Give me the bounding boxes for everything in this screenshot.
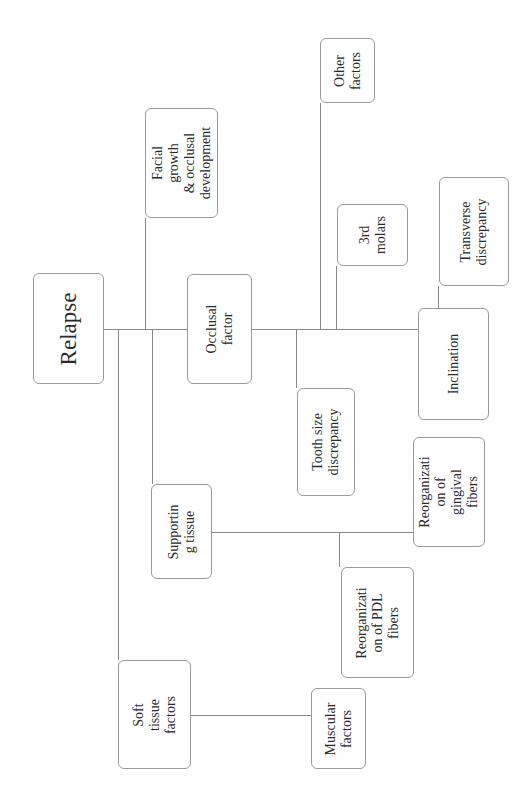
node-label: Occlusal factor xyxy=(203,305,235,354)
node-label: 3rd molars xyxy=(356,216,388,254)
node-reorganization-gingival-fibers: Reorganizati on of gingival fibers xyxy=(413,437,485,547)
node-soft-tissue-factors: Soft tissue factors xyxy=(118,660,191,769)
node-label: Soft tissue factors xyxy=(130,695,178,733)
node-supporting-tissue: Supportin g tissue xyxy=(151,484,212,579)
node-label: Facial growth & occlusal development xyxy=(149,127,213,199)
node-reorganization-pdl-fibers: Reorganizati on of PDL fibers xyxy=(341,567,414,678)
node-inclination: Inclination xyxy=(418,308,489,420)
node-transverse-discrepancy: Transverse discrepancy xyxy=(439,177,509,286)
node-label: Muscular factors xyxy=(322,702,354,755)
node-label: Supportin g tissue xyxy=(165,504,197,559)
node-label: Transverse discrepancy xyxy=(458,198,490,265)
connector-supporting-gingival xyxy=(212,532,413,533)
node-facial-growth: Facial growth & occlusal development xyxy=(145,108,218,218)
connector-to-facial-growth xyxy=(145,218,146,329)
connector-occlusal-inclination xyxy=(252,329,418,330)
connector-to-tooth-size xyxy=(296,329,297,388)
node-label: Inclination xyxy=(445,334,461,395)
node-3rd-molars: 3rd molars xyxy=(337,204,408,266)
node-label: Other factors xyxy=(331,51,363,89)
node-tooth-size-discrepancy: Tooth size discrepancy xyxy=(297,388,355,496)
node-muscular-factors: Muscular factors xyxy=(311,688,366,769)
node-label: Tooth size discrepancy xyxy=(310,409,342,476)
connector-to-supporting-tissue xyxy=(152,329,153,484)
connector-soft-muscular xyxy=(191,715,311,716)
node-relapse: Relapse xyxy=(33,273,104,384)
connector-to-3rd-molars xyxy=(336,266,337,329)
node-occlusal-factor: Occlusal factor xyxy=(187,274,252,384)
node-label: Reorganizati on of PDL fibers xyxy=(353,587,401,658)
connector-to-other-factors xyxy=(320,103,321,329)
node-label: Reorganizati on of gingival fibers xyxy=(417,456,481,527)
connector-relapse-occlusal xyxy=(104,329,187,330)
connector-to-pdl xyxy=(339,532,340,567)
node-other-factors: Other factors xyxy=(320,38,375,103)
connector-to-soft-tissue xyxy=(118,329,119,660)
connector-inclination-transverse xyxy=(438,286,439,308)
node-label: Relapse xyxy=(55,292,81,365)
